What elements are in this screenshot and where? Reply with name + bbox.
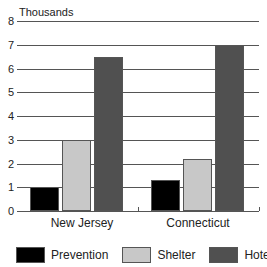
legend-item-hotel-motel: Hotel/Motel xyxy=(209,247,267,263)
y-tick-label: 3 xyxy=(4,134,14,146)
y-tick-label: 6 xyxy=(4,63,14,75)
bar-shelter-new-jersey xyxy=(62,140,91,211)
legend-item-prevention: Prevention xyxy=(16,247,108,263)
y-tick-label: 5 xyxy=(4,86,14,98)
legend-label: Hotel/Motel xyxy=(244,248,267,262)
x-axis xyxy=(17,211,259,212)
y-tick-label: 1 xyxy=(4,181,14,193)
legend: Prevention Shelter Hotel/Motel xyxy=(16,247,267,263)
bar-hotel-motel-new-jersey xyxy=(94,57,123,211)
legend-item-shelter: Shelter xyxy=(122,247,195,263)
y-tick-label: 4 xyxy=(4,110,14,122)
bar-hotel-motel-connecticut xyxy=(215,45,244,211)
category-label-new-jersey: New Jersey xyxy=(32,216,132,230)
bar-prevention-connecticut xyxy=(151,180,180,211)
y-axis-title: Thousands xyxy=(19,6,73,18)
legend-label: Prevention xyxy=(51,248,108,262)
gridline xyxy=(17,21,259,22)
bar-shelter-connecticut xyxy=(183,159,212,211)
y-tick-label: 7 xyxy=(4,39,14,51)
y-tick-label: 2 xyxy=(4,158,14,170)
legend-swatch-shelter xyxy=(122,247,151,263)
x-tick-mark xyxy=(259,207,260,211)
legend-swatch-hotel-motel xyxy=(209,247,238,263)
legend-swatch-prevention xyxy=(16,247,45,263)
y-tick-label: 0 xyxy=(4,205,14,217)
y-tick-label: 8 xyxy=(4,15,14,27)
bar-prevention-new-jersey xyxy=(30,187,59,211)
legend-label: Shelter xyxy=(157,248,195,262)
category-label-connecticut: Connecticut xyxy=(148,216,248,230)
